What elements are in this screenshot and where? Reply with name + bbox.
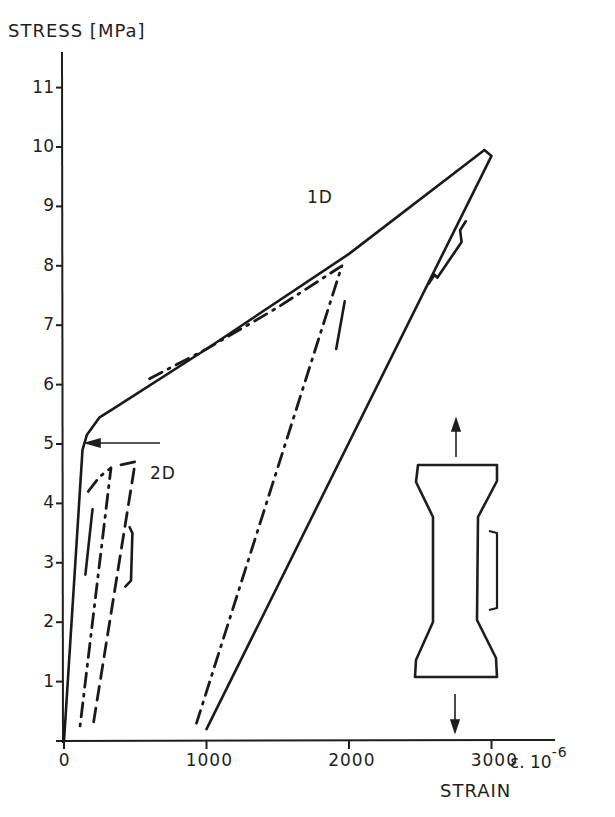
y-tick-label: 6 xyxy=(14,374,54,394)
y-axis-label: STRESS [MPa] xyxy=(8,20,146,41)
y-tick-label: 1 xyxy=(14,671,54,691)
x-axis-label: STRAIN xyxy=(440,780,511,801)
x-tick-label: 0 xyxy=(59,750,71,770)
y-tick-label: 11 xyxy=(14,77,54,97)
x-unit-label: ε. 10-6 xyxy=(510,748,568,772)
y-tick-label: 9 xyxy=(14,195,54,215)
series-3 xyxy=(93,462,136,729)
annotation-2d: 2D xyxy=(150,463,176,483)
y-tick-label: 10 xyxy=(14,136,54,156)
tension-arrow-up xyxy=(452,419,460,457)
y-tick-label: 2 xyxy=(14,611,54,631)
stress-strain-chart xyxy=(0,0,615,817)
y-axis-line xyxy=(62,52,63,743)
series-layer xyxy=(64,150,492,741)
x-axis-line xyxy=(56,740,555,741)
y-tick-label: 7 xyxy=(14,314,54,334)
series-1 xyxy=(150,266,342,723)
x-tick-label: 2000 xyxy=(328,750,375,770)
gauge-bracket xyxy=(489,531,497,610)
annotation-1d: 1D xyxy=(307,187,333,207)
y-tick-label: 5 xyxy=(14,433,54,453)
gauge-mark-0 xyxy=(429,221,466,283)
x-tick-label: 1000 xyxy=(186,750,233,770)
series-2 xyxy=(80,468,111,729)
tension-arrow-down xyxy=(451,694,459,732)
y-tick-label: 8 xyxy=(14,255,54,275)
x-unit-exponent: -6 xyxy=(552,744,568,760)
gauge-mark-1 xyxy=(336,301,345,349)
y-tick-label: 4 xyxy=(14,492,54,512)
gauge-mark-2 xyxy=(125,527,132,586)
axes xyxy=(56,52,555,749)
series-0 xyxy=(64,150,492,741)
extensometer-marks xyxy=(85,221,465,586)
gauge-mark-3 xyxy=(85,509,92,574)
y-tick-label: 3 xyxy=(14,552,54,572)
specimen-icon xyxy=(415,465,497,677)
yield-arrow xyxy=(86,439,160,447)
